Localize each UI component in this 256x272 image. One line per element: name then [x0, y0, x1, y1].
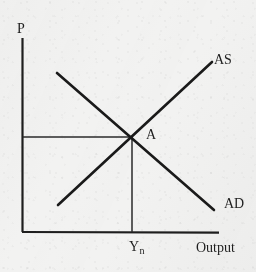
aggregate-demand-curve	[57, 73, 214, 210]
aggregate-supply-curve-label: AS	[214, 53, 232, 67]
equilibrium-point-label: A	[146, 128, 156, 142]
x-axis-label: Output	[196, 241, 235, 255]
natural-output-tick-label: Yn	[129, 240, 145, 254]
aggregate-supply-curve	[58, 62, 212, 205]
aggregate-demand-curve-label: AD	[224, 197, 244, 211]
x-axis-line	[22, 232, 219, 233]
diagram-canvas	[0, 0, 256, 272]
as-ad-diagram: P AS A AD Yn Output	[0, 0, 256, 272]
natural-output-base: Y	[129, 239, 139, 254]
natural-output-subscript: n	[140, 245, 145, 256]
y-axis-label: P	[17, 22, 25, 36]
